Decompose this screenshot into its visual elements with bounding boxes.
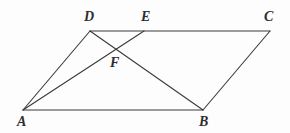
- vertex-label-B: B: [199, 115, 208, 129]
- geometry-figure: A B C D E F: [0, 0, 290, 133]
- vertex-label-F: F: [110, 56, 119, 70]
- vertex-label-C: C: [264, 10, 273, 24]
- vertex-label-D: D: [84, 10, 94, 24]
- vertex-label-A: A: [17, 115, 26, 129]
- segment-ae: [23, 31, 144, 110]
- segment-ad: [23, 31, 90, 110]
- segment-db: [90, 31, 203, 110]
- segment-bc: [203, 31, 270, 110]
- vertex-label-E: E: [141, 10, 150, 24]
- segment-layer: [23, 31, 270, 110]
